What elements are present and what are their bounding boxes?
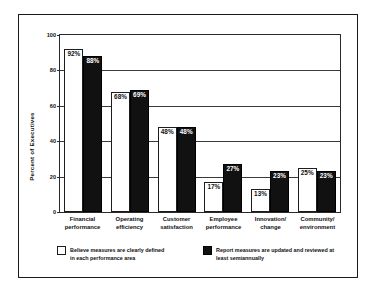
bar-value-label: 48% bbox=[161, 129, 174, 135]
bar-value-label: 88% bbox=[86, 58, 99, 64]
y-tick-label: 60 bbox=[50, 103, 56, 109]
y-tick-label: 20 bbox=[50, 174, 56, 180]
x-axis-label: Customersatisfaction bbox=[153, 216, 200, 232]
bar-light: 25% bbox=[298, 168, 317, 212]
x-axis-label: Community/environment bbox=[294, 216, 341, 232]
bar-group: 13%23% bbox=[247, 35, 294, 212]
bar-group: 17%27% bbox=[200, 35, 247, 212]
x-axis-label-line: Financial bbox=[60, 216, 105, 224]
legend-label-line: least semiannually bbox=[216, 254, 334, 262]
bar-group: 48%48% bbox=[153, 35, 200, 212]
x-axis-label: Financialperformance bbox=[59, 216, 106, 232]
x-axis-label: Employeeperformance bbox=[200, 216, 247, 232]
y-tick-label: 40 bbox=[50, 138, 56, 144]
bar-value-label: 48% bbox=[180, 129, 193, 135]
x-axis-label-line: performance bbox=[201, 224, 246, 232]
legend-label-line: Report measures are updated and reviewed… bbox=[216, 246, 334, 254]
bar-dark: 48% bbox=[177, 127, 196, 212]
y-tick-label: 100 bbox=[47, 32, 56, 38]
bar-dark: 23% bbox=[270, 171, 289, 212]
y-tick-label: 80 bbox=[50, 67, 56, 73]
x-axis-label: Innovation/change bbox=[247, 216, 294, 232]
x-axis-labels: FinancialperformanceOperatingefficiencyC… bbox=[59, 216, 341, 232]
x-axis-label-line: Innovation/ bbox=[248, 216, 293, 224]
y-axis-title-text: Percent of Executives bbox=[28, 112, 35, 181]
x-axis-label-line: Community/ bbox=[295, 216, 340, 224]
bar-dark: 27% bbox=[223, 164, 242, 212]
bar-value-label: 69% bbox=[133, 92, 146, 98]
bar-value-label: 13% bbox=[254, 191, 267, 197]
legend-label: Believe measures are clearly definedin e… bbox=[70, 246, 164, 263]
bar-light: 48% bbox=[158, 127, 177, 212]
bar-value-label: 68% bbox=[114, 94, 127, 100]
x-axis-label-line: Customer bbox=[154, 216, 199, 224]
bar-group: 25%23% bbox=[293, 35, 340, 212]
bar-value-label: 25% bbox=[301, 170, 314, 176]
legend-label-line: in each performance area bbox=[70, 254, 164, 262]
bar-light: 68% bbox=[111, 92, 130, 212]
x-axis-label: Operatingefficiency bbox=[106, 216, 153, 232]
y-axis-title: Percent of Executives bbox=[25, 15, 37, 277]
x-axis-label-line: change bbox=[248, 224, 293, 232]
bar-value-label: 23% bbox=[273, 173, 286, 179]
chart-figure: Percent of Executives 020406080100 92%88… bbox=[18, 14, 358, 278]
x-axis-label-line: Employee bbox=[201, 216, 246, 224]
bar-group: 92%88% bbox=[60, 35, 107, 212]
bar-value-label: 27% bbox=[226, 166, 239, 172]
bar-value-label: 92% bbox=[67, 51, 80, 57]
bar-value-label: 17% bbox=[207, 184, 220, 190]
legend-swatch-dark bbox=[203, 246, 212, 255]
bar-groups: 92%88%68%69%48%48%17%27%13%23%25%23% bbox=[60, 35, 340, 212]
legend-label: Report measures are updated and reviewed… bbox=[216, 246, 334, 263]
bar-dark: 69% bbox=[130, 90, 149, 212]
x-axis-label-line: performance bbox=[60, 224, 105, 232]
legend-item[interactable]: Report measures are updated and reviewed… bbox=[203, 246, 343, 263]
y-tick-mark bbox=[57, 212, 60, 213]
y-tick-label: 0 bbox=[53, 209, 56, 215]
bar-dark: 23% bbox=[317, 171, 336, 212]
legend-label-line: Believe measures are clearly defined bbox=[70, 246, 164, 254]
x-axis-label-line: Operating bbox=[107, 216, 152, 224]
bar-light: 13% bbox=[251, 189, 270, 212]
chart-legend: Believe measures are clearly definedin e… bbox=[57, 246, 343, 263]
legend-item[interactable]: Believe measures are clearly definedin e… bbox=[57, 246, 197, 263]
bar-value-label: 23% bbox=[320, 173, 333, 179]
x-axis-label-line: efficiency bbox=[107, 224, 152, 232]
bar-light: 92% bbox=[64, 49, 83, 212]
bar-group: 68%69% bbox=[107, 35, 154, 212]
legend-swatch-light bbox=[57, 246, 66, 255]
x-axis-label-line: satisfaction bbox=[154, 224, 199, 232]
plot-area: 020406080100 92%88%68%69%48%48%17%27%13%… bbox=[59, 34, 341, 213]
bar-dark: 88% bbox=[83, 56, 102, 212]
bar-light: 17% bbox=[204, 182, 223, 212]
x-axis-label-line: environment bbox=[295, 224, 340, 232]
